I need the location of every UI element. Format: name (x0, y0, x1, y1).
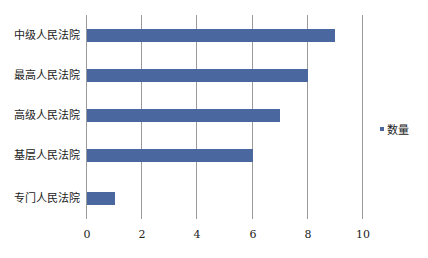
category-label: 高级人民法院 (0, 109, 80, 122)
bar (87, 192, 115, 205)
category-label: 最高人民法院 (0, 69, 80, 82)
bar (87, 109, 280, 122)
category-label: 专门人民法院 (0, 192, 80, 205)
x-tick-label: 2 (132, 228, 152, 241)
x-tick-label: 0 (77, 228, 97, 241)
bar-chart: 0246810中级人民法院最高人民法院高级人民法院基层人民法院专门人民法院 (0, 0, 428, 258)
legend-label: 数量 (387, 121, 409, 137)
x-tick-label: 10 (353, 228, 373, 241)
x-tick-label: 6 (243, 228, 263, 241)
gridline (362, 15, 363, 219)
bar (87, 29, 335, 42)
x-tick-label: 4 (187, 228, 207, 241)
category-label: 基层人民法院 (0, 149, 80, 162)
legend-swatch-icon (380, 127, 384, 131)
x-tick-label: 8 (298, 228, 318, 241)
gridline (307, 15, 308, 219)
bar (87, 69, 308, 82)
category-label: 中级人民法院 (0, 29, 80, 42)
chart-legend: 数量 (380, 121, 409, 137)
bar (87, 149, 253, 162)
